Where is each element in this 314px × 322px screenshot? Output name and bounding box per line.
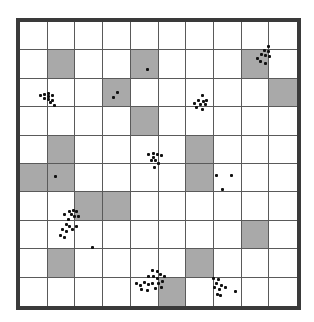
grid-cell-shaded xyxy=(131,50,159,78)
grid-cell xyxy=(103,278,131,306)
grid-cell xyxy=(214,221,242,249)
grid-cell-shaded xyxy=(103,79,131,107)
grid-cell-shaded xyxy=(186,136,214,164)
grid-cell xyxy=(159,107,187,135)
grid-cell xyxy=(75,136,103,164)
grid-cell xyxy=(103,136,131,164)
grid-cell xyxy=(20,221,48,249)
grid-cell xyxy=(242,249,270,277)
grid-cell xyxy=(269,107,297,135)
grid-cell xyxy=(48,22,76,50)
grid-cell xyxy=(75,278,103,306)
grid-cell xyxy=(103,249,131,277)
grid-cell xyxy=(159,164,187,192)
grid-cell xyxy=(186,221,214,249)
grid-cell xyxy=(20,79,48,107)
grid-cell xyxy=(48,221,76,249)
grid-cell xyxy=(214,164,242,192)
grid-cell xyxy=(75,249,103,277)
grid-cell-shaded xyxy=(186,249,214,277)
grid-cell xyxy=(75,221,103,249)
grid-cell-shaded xyxy=(159,278,187,306)
grid-cell-shaded xyxy=(20,164,48,192)
grid-cells xyxy=(20,22,297,306)
grid-cell-shaded xyxy=(48,164,76,192)
grid-board xyxy=(16,18,301,310)
grid-cell-shaded xyxy=(186,164,214,192)
grid-cell xyxy=(242,107,270,135)
grid-cell xyxy=(242,278,270,306)
grid-cell xyxy=(75,164,103,192)
grid-cell xyxy=(20,107,48,135)
grid-cell xyxy=(186,278,214,306)
grid-cell xyxy=(242,192,270,220)
grid-cell xyxy=(159,50,187,78)
grid-cell-shaded xyxy=(48,136,76,164)
grid-cell-shaded xyxy=(75,192,103,220)
grid-cell xyxy=(242,79,270,107)
grid-cell xyxy=(159,221,187,249)
grid-cell xyxy=(20,249,48,277)
grid-cell xyxy=(269,22,297,50)
grid-cell xyxy=(48,278,76,306)
grid-cell xyxy=(103,22,131,50)
grid-cell xyxy=(75,107,103,135)
grid-cell xyxy=(103,221,131,249)
grid-cell xyxy=(269,278,297,306)
grid-cell-shaded xyxy=(103,192,131,220)
grid-cell xyxy=(131,79,159,107)
grid-cell xyxy=(103,107,131,135)
grid-cell xyxy=(131,136,159,164)
grid-cell xyxy=(186,107,214,135)
grid-cell xyxy=(186,50,214,78)
grid-cell xyxy=(159,192,187,220)
grid-cell xyxy=(242,136,270,164)
grid-cell xyxy=(75,50,103,78)
grid-cell xyxy=(214,79,242,107)
grid-cell xyxy=(131,249,159,277)
grid-cell xyxy=(214,249,242,277)
grid-cell xyxy=(20,136,48,164)
grid-cell-shaded xyxy=(242,50,270,78)
grid-cell xyxy=(269,50,297,78)
grid-cell xyxy=(269,164,297,192)
grid-cell xyxy=(186,192,214,220)
grid-cell-shaded xyxy=(48,50,76,78)
grid-cell xyxy=(103,164,131,192)
grid-cell xyxy=(103,50,131,78)
grid-cell-shaded xyxy=(242,221,270,249)
grid-cell xyxy=(131,22,159,50)
grid-cell xyxy=(269,249,297,277)
grid-cell xyxy=(20,50,48,78)
grid-cell xyxy=(20,22,48,50)
grid-cell xyxy=(48,107,76,135)
grid-cell xyxy=(214,278,242,306)
grid-cell xyxy=(214,192,242,220)
grid-cell xyxy=(269,192,297,220)
grid-cell xyxy=(20,192,48,220)
grid-cell xyxy=(131,221,159,249)
grid-cell xyxy=(48,192,76,220)
grid-cell xyxy=(20,278,48,306)
grid-cell xyxy=(131,192,159,220)
grid-cell xyxy=(159,249,187,277)
grid-cell xyxy=(186,79,214,107)
grid-cell xyxy=(48,79,76,107)
grid-cell xyxy=(75,79,103,107)
grid-cell xyxy=(214,136,242,164)
grid-cell xyxy=(159,136,187,164)
grid-cell xyxy=(131,278,159,306)
grid-cell xyxy=(159,22,187,50)
grid-cell xyxy=(242,22,270,50)
grid-cell-shaded xyxy=(269,79,297,107)
grid-cell xyxy=(269,221,297,249)
grid-cell xyxy=(131,164,159,192)
grid-cell xyxy=(214,107,242,135)
grid-cell xyxy=(75,22,103,50)
grid-cell xyxy=(186,22,214,50)
grid-cell xyxy=(269,136,297,164)
grid-cell xyxy=(159,79,187,107)
grid-cell xyxy=(214,22,242,50)
grid-cell xyxy=(242,164,270,192)
grid-cell xyxy=(214,50,242,78)
